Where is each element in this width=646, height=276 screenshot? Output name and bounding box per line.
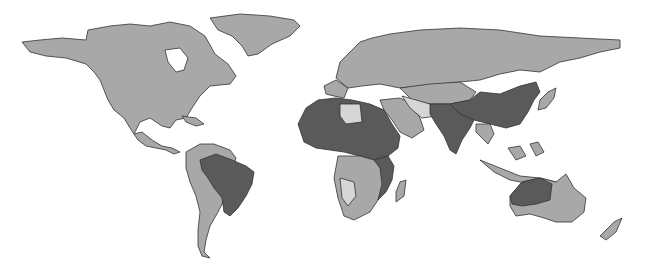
greenland: [210, 14, 300, 56]
south-america: [186, 144, 254, 258]
world-choropleth-map: [0, 0, 646, 276]
north-america: [22, 22, 236, 154]
madagascar: [396, 180, 406, 202]
southeast-asia: [476, 124, 566, 188]
new-zealand: [600, 218, 622, 240]
libya: [340, 104, 362, 124]
eurasia-north: [324, 28, 620, 98]
japan: [538, 88, 556, 110]
